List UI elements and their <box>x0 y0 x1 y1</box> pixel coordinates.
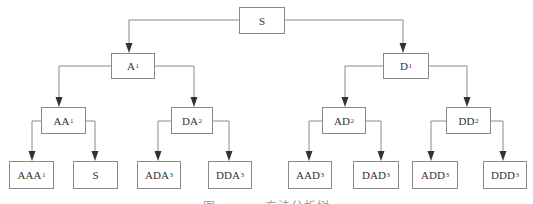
node-subscript: 1 <box>70 117 74 125</box>
tree-node-aa1: AA1 <box>41 107 86 134</box>
node-label: DA <box>182 115 198 127</box>
node-label: S <box>92 169 98 181</box>
edge-a1-to-aa1 <box>59 66 111 98</box>
node-subscript: 3 <box>240 171 244 179</box>
arrowhead-icon <box>500 151 507 161</box>
edge-s-to-d1 <box>285 20 403 44</box>
tree-node-s: S <box>73 161 118 189</box>
arrowhead-icon <box>155 151 162 161</box>
tree-node-a1: A1 <box>111 53 155 79</box>
node-label: DDD <box>491 169 515 181</box>
node-subscript: 3 <box>169 171 173 179</box>
edge-dd2-to-add3 <box>431 121 446 152</box>
tree-diagram: SA1D1AA1DA2AD2DD2AAA1SADA3DDA3AAD3DAD3AD… <box>0 0 533 204</box>
tree-node-add3: ADD3 <box>412 161 458 189</box>
arrowhead-icon <box>306 151 313 161</box>
edge-aa1-to-s <box>86 121 95 152</box>
edge-aa1-to-aaa1 <box>32 121 41 152</box>
node-label: AD <box>334 115 350 127</box>
node-label: D <box>400 60 408 72</box>
edge-da2-to-dda3 <box>213 121 229 152</box>
arrowhead-icon <box>428 151 435 161</box>
arrowhead-icon <box>378 151 385 161</box>
arrowhead-icon <box>464 97 471 107</box>
tree-node-aaa1: AAA1 <box>9 161 54 189</box>
node-label: AA <box>54 115 70 127</box>
edges <box>29 20 507 161</box>
node-label: AAD <box>296 169 320 181</box>
arrowhead-icon <box>92 151 99 161</box>
edge-a1-to-da2 <box>155 66 194 98</box>
tree-node-dda3: DDA3 <box>208 161 252 189</box>
node-label: DAD <box>362 169 386 181</box>
node-label: S <box>259 15 265 27</box>
node-subscript: 3 <box>445 171 449 179</box>
arrowhead-icon <box>191 97 198 107</box>
tree-node-ada3: ADA3 <box>137 161 181 189</box>
arrowhead-icon <box>29 151 36 161</box>
node-subscript: 2 <box>475 117 479 125</box>
node-label: DD <box>459 115 475 127</box>
tree-node-ddd3: DDD3 <box>483 161 527 189</box>
node-subscript: 2 <box>350 117 354 125</box>
arrowhead-icon <box>126 43 133 53</box>
edge-ad2-to-aad3 <box>309 121 322 152</box>
tree-node-dad3: DAD3 <box>353 161 399 189</box>
tree-node-d1: D1 <box>383 53 429 79</box>
node-subscript: 3 <box>515 171 519 179</box>
node-subscript: 2 <box>198 117 202 125</box>
arrowhead-icon <box>56 97 63 107</box>
node-subscript: 3 <box>386 171 390 179</box>
edge-ad2-to-dad3 <box>366 121 381 152</box>
edge-s-to-a1 <box>129 20 239 44</box>
node-subscript: 1 <box>42 171 46 179</box>
arrowhead-icon <box>400 43 407 53</box>
edge-da2-to-ada3 <box>158 121 171 152</box>
edge-d1-to-ad2 <box>345 66 383 98</box>
arrowhead-icon <box>342 97 349 107</box>
tree-node-s: S <box>239 7 285 34</box>
node-subscript: 1 <box>408 62 412 70</box>
node-subscript: 1 <box>135 62 139 70</box>
figure-caption: 图 ········ 方法分析树 <box>0 197 533 204</box>
arrowhead-icon <box>226 151 233 161</box>
node-label: A <box>127 60 135 72</box>
node-label: DDA <box>216 169 240 181</box>
node-subscript: 3 <box>320 171 324 179</box>
edge-dd2-to-ddd3 <box>491 121 503 152</box>
edge-d1-to-dd2 <box>429 66 467 98</box>
tree-node-ad2: AD2 <box>322 107 366 134</box>
tree-node-dd2: DD2 <box>446 107 491 134</box>
tree-node-aad3: AAD3 <box>288 161 332 189</box>
node-label: ADD <box>421 169 445 181</box>
node-label: AAA <box>18 169 42 181</box>
node-label: ADA <box>145 169 169 181</box>
tree-node-da2: DA2 <box>171 107 213 134</box>
